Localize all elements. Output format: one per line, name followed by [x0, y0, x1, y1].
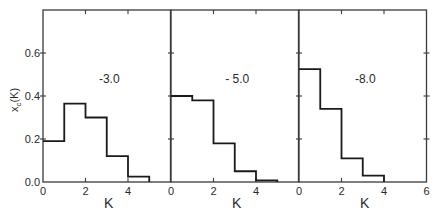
y-tick-label: 0.4: [25, 90, 40, 102]
y-label-arg: (K): [8, 88, 20, 103]
y-tick-label: 0.6: [25, 47, 40, 59]
x-tick-label: 2: [82, 185, 88, 197]
x-tick-label: 0: [40, 185, 46, 197]
y-axis-label: xc(K): [8, 88, 23, 112]
panel-frame-3: [299, 10, 427, 182]
panel-annotations: -3.0- 5.0-8.0: [99, 72, 376, 86]
x-axis-label: K: [232, 195, 242, 211]
step-chart-figure: 02402402460.00.20.40.6 -3.0- 5.0-8.0 KKK…: [0, 0, 435, 214]
x-tick-label: 2: [210, 185, 216, 197]
x-tick-label: 4: [125, 185, 131, 197]
panel-annotation: - 5.0: [225, 72, 249, 86]
step-series: [43, 69, 384, 182]
panel-annotation: -8.0: [355, 72, 376, 86]
x-tick-label: 2: [338, 185, 344, 197]
x-tick-label: 4: [381, 185, 387, 197]
x-tick-label: 0: [168, 185, 174, 197]
tick-labels: 02402402460.00.20.40.6: [25, 47, 430, 197]
chart-canvas: 02402402460.00.20.40.6 -3.0- 5.0-8.0 KKK…: [0, 0, 435, 214]
svg-text:xc(K): xc(K): [8, 88, 23, 112]
step-line-panel-3: [299, 69, 384, 182]
y-tick-label: 0.0: [25, 176, 40, 188]
step-line-panel-1: [43, 104, 149, 182]
panel-annotation: -3.0: [99, 72, 120, 86]
x-axis-labels: KKK: [104, 195, 370, 211]
x-axis-label: K: [104, 195, 114, 211]
step-line-panel-2: [171, 96, 277, 182]
y-tick-label: 0.2: [25, 133, 40, 145]
x-tick-label: 4: [253, 185, 259, 197]
x-tick-label: 0: [296, 185, 302, 197]
x-tick-label: 6: [423, 185, 429, 197]
x-axis-label: K: [360, 195, 370, 211]
